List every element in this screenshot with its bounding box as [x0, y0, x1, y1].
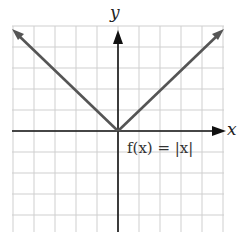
y-axis-label: y	[110, 2, 120, 22]
x-axis-label: x	[227, 119, 237, 139]
plot-area	[0, 0, 239, 232]
function-label: f(x) = |x|	[127, 139, 193, 157]
x-axis-arrow-icon	[212, 126, 226, 136]
y-axis-arrow-icon	[113, 30, 123, 44]
